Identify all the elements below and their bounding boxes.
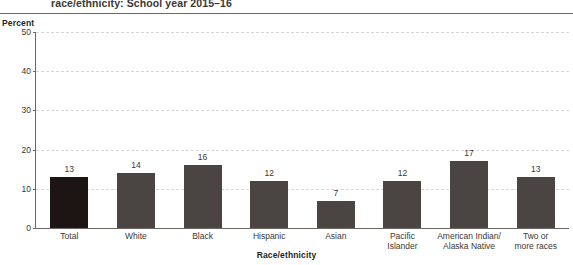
x-axis-title: Race/ethnicity bbox=[0, 250, 573, 260]
bar-slot: 13 bbox=[36, 32, 103, 228]
x-tick-label: Two ormore races bbox=[502, 231, 569, 251]
bar-value-label: 7 bbox=[333, 188, 338, 198]
bar-value-label: 14 bbox=[131, 160, 140, 170]
y-tick-label-0: 0 bbox=[26, 223, 31, 233]
chart-title: race/ethnicity: School year 2015–16 bbox=[51, 0, 232, 9]
y-tick-label-10: 10 bbox=[22, 184, 31, 194]
bar-series: 131416127121713 bbox=[36, 32, 569, 228]
x-tick-label: American Indian/Alaska Native bbox=[436, 231, 503, 251]
plot-area: 01020304050 131416127121713 bbox=[36, 32, 569, 228]
x-tick-label-line: American Indian/ bbox=[436, 231, 503, 241]
bar-slot: 12 bbox=[236, 32, 303, 228]
bar[interactable] bbox=[383, 181, 421, 228]
x-tick-label: Total bbox=[36, 231, 103, 241]
x-tick-label: White bbox=[103, 231, 170, 241]
bar-value-label: 13 bbox=[65, 164, 74, 174]
bar-slot: 17 bbox=[436, 32, 503, 228]
x-tick-label-line: Black bbox=[169, 231, 236, 241]
bar-slot: 13 bbox=[502, 32, 569, 228]
x-tick-label: PacificIslander bbox=[369, 231, 436, 251]
x-tick-label-line: Asian bbox=[303, 231, 370, 241]
bar[interactable] bbox=[517, 177, 555, 228]
bar-value-label: 17 bbox=[464, 148, 473, 158]
y-tick-label-50: 50 bbox=[22, 27, 31, 37]
x-tick-label-line: Two or bbox=[502, 231, 569, 241]
bar-slot: 12 bbox=[369, 32, 436, 228]
x-tick-label-line: Total bbox=[36, 231, 103, 241]
y-tick-label-40: 40 bbox=[22, 66, 31, 76]
bar-slot: 7 bbox=[303, 32, 370, 228]
bar[interactable] bbox=[250, 181, 288, 228]
bar[interactable] bbox=[450, 161, 488, 228]
x-tick-label-line: White bbox=[103, 231, 170, 241]
x-tick-label-line: Hispanic bbox=[236, 231, 303, 241]
y-tick-mark-0 bbox=[33, 228, 36, 229]
bar[interactable] bbox=[50, 177, 88, 228]
bar[interactable] bbox=[317, 201, 355, 228]
x-tick-label-line: Pacific bbox=[369, 231, 436, 241]
bar[interactable] bbox=[184, 165, 222, 228]
x-tick-label: Asian bbox=[303, 231, 370, 241]
title-divider bbox=[0, 13, 573, 14]
y-tick-label-30: 30 bbox=[22, 105, 31, 115]
bar-value-label: 12 bbox=[398, 168, 407, 178]
bar[interactable] bbox=[117, 173, 155, 228]
x-tick-label: Black bbox=[169, 231, 236, 241]
x-tick-label: Hispanic bbox=[236, 231, 303, 241]
bar-value-label: 12 bbox=[264, 168, 273, 178]
bar-slot: 16 bbox=[169, 32, 236, 228]
chart-title-band: race/ethnicity: School year 2015–16 bbox=[0, 0, 573, 13]
bar-value-label: 13 bbox=[531, 164, 540, 174]
bar-value-label: 16 bbox=[198, 152, 207, 162]
bar-slot: 14 bbox=[103, 32, 170, 228]
bar-chart-figure: race/ethnicity: School year 2015–16 Perc… bbox=[0, 0, 573, 265]
x-axis-line bbox=[35, 228, 569, 229]
y-tick-label-20: 20 bbox=[22, 145, 31, 155]
